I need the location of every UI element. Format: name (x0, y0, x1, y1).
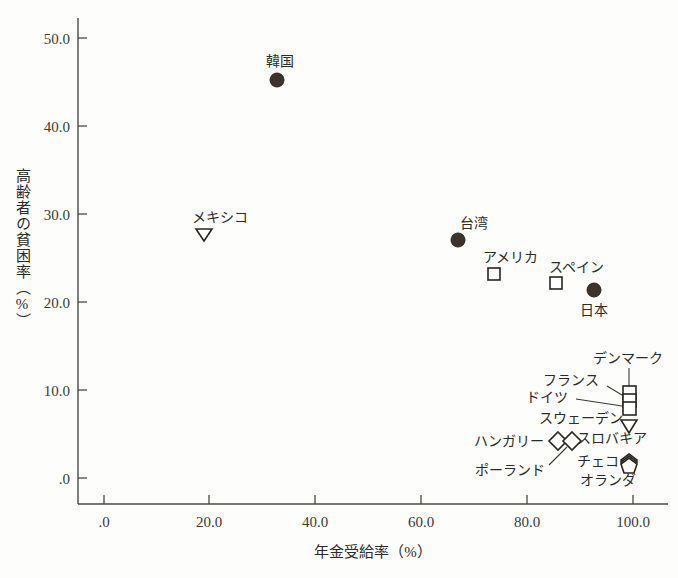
marker-square-open (623, 402, 636, 415)
point-label-sweden: スウェーデン (539, 410, 623, 426)
x-tick-label-0: .0 (98, 514, 109, 530)
x-tick-label-80: 80.0 (514, 514, 540, 530)
point-hungary: ハンガリー (474, 432, 567, 450)
point-label-spain: スペイン (549, 260, 604, 275)
point-sweden: スウェーデン (539, 410, 637, 433)
point-label-germany: ドイツ (526, 390, 568, 405)
point-mexico: メキシコ (192, 210, 248, 241)
marker-circle-filled (451, 233, 465, 247)
y-tick-label-30: 30.0 (44, 207, 70, 223)
y-tick-label-10: 10.0 (44, 383, 70, 399)
marker-square-open (550, 277, 562, 289)
leader-line-germany (576, 399, 622, 406)
point-label-poland: ポーランド (475, 463, 545, 478)
point-label-mexico: メキシコ (192, 210, 248, 225)
point-japan: 日本 (580, 283, 608, 318)
y-axis-title-wrap: 高齢者の貧困率（%） (14, 168, 29, 468)
x-tick-label-100: 100.0 (616, 514, 650, 530)
chart-canvas: 50.0 40.0 30.0 20.0 10.0 .0 .0 20.0 40.0… (0, 0, 678, 578)
marker-circle-filled (270, 73, 284, 87)
point-usa: アメリカ (483, 250, 538, 280)
y-tick-label-0: .0 (59, 471, 70, 487)
marker-circle-filled (587, 283, 601, 297)
x-tick-label-40: 40.0 (302, 514, 328, 530)
y-tick-label-40: 40.0 (44, 119, 70, 135)
y-tick-label-20: 20.0 (44, 295, 70, 311)
point-label-usa: アメリカ (483, 250, 538, 265)
point-label-taiwan: 台湾 (460, 215, 488, 231)
x-axis-title: 年金受給率（%） (314, 544, 432, 560)
point-label-slovakia: スロバキア (577, 431, 647, 446)
y-axis-title: 高齢者の貧困率（%） (14, 168, 29, 329)
x-tick-labels: .0 20.0 40.0 60.0 80.0 100.0 (98, 514, 650, 530)
point-korea: 韓国 (266, 54, 294, 87)
point-label-netherlands: オランダ (580, 473, 636, 488)
point-label-denmark: デンマーク (593, 350, 663, 366)
x-tick-label-60: 60.0 (408, 514, 434, 530)
y-tick-labels: 50.0 40.0 30.0 20.0 10.0 .0 (44, 31, 70, 487)
point-label-korea: 韓国 (266, 54, 294, 69)
point-taiwan: 台湾 (451, 215, 488, 247)
scatter-chart: 50.0 40.0 30.0 20.0 10.0 .0 .0 20.0 40.0… (0, 0, 678, 578)
y-ticks (78, 38, 87, 478)
point-label-hungary: ハンガリー (474, 434, 544, 449)
y-tick-label-50: 50.0 (44, 31, 70, 47)
x-ticks (104, 495, 633, 504)
point-label-czech: チェコ (577, 454, 619, 469)
marker-square-open (488, 268, 500, 280)
point-label-japan: 日本 (580, 303, 608, 318)
x-tick-label-20: 20.0 (196, 514, 222, 530)
leader-line-france (607, 386, 622, 395)
marker-triangle-down-open (196, 229, 212, 241)
point-label-france: フランス (543, 373, 599, 388)
point-denmark: デンマーク (593, 350, 663, 399)
